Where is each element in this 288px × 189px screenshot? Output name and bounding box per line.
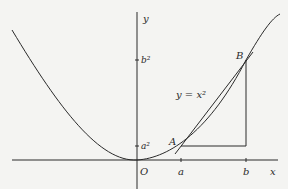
y-tick-label-b-squared: b² bbox=[141, 55, 151, 65]
diagram-canvas: y x O a b a² b² A B y = x² bbox=[0, 0, 288, 189]
parabola-curve bbox=[12, 14, 280, 160]
y-tick-label-a-squared: a² bbox=[141, 141, 150, 151]
parabola-diagram: y x O a b a² b² A B y = x² bbox=[0, 0, 288, 189]
x-tick-label-a: a bbox=[178, 166, 184, 177]
y-axis-label: y bbox=[142, 13, 149, 24]
chord-ab bbox=[175, 52, 253, 154]
curve-equation-label: y = x² bbox=[175, 89, 206, 100]
point-label-a: A bbox=[168, 136, 176, 147]
origin-label: O bbox=[140, 166, 148, 177]
x-axis-label: x bbox=[270, 166, 276, 177]
point-label-b: B bbox=[235, 50, 243, 61]
x-tick-label-b: b bbox=[243, 166, 249, 177]
